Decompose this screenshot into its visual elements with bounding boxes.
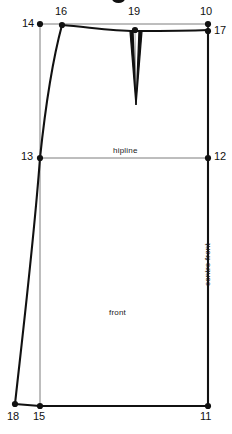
point-label-17: 17	[214, 25, 226, 36]
hem-line	[15, 404, 208, 406]
point-marker-11	[205, 403, 211, 409]
pattern-outline-group	[15, 25, 208, 406]
hipline-label: hipline	[113, 146, 138, 155]
point-marker-15	[37, 403, 43, 409]
centre-front-label: centre front	[203, 243, 212, 286]
point-label-19: 19	[128, 6, 140, 17]
waist-dart-group	[130, 31, 142, 105]
construction-lines-group	[40, 24, 208, 406]
point-marker-16	[59, 22, 65, 28]
point-label-15: 15	[33, 411, 45, 422]
point-marker-19	[132, 27, 138, 33]
point-marker-14	[37, 21, 43, 27]
pattern-vector-graphic	[0, 0, 232, 434]
point-label-11: 11	[200, 411, 211, 422]
point-label-10: 10	[200, 6, 212, 17]
point-marker-12	[205, 155, 211, 161]
side-seam-line	[15, 25, 62, 404]
point-label-12: 12	[214, 151, 226, 162]
point-markers-group	[12, 21, 211, 409]
point-marker-10	[205, 21, 211, 27]
point-marker-13	[37, 155, 43, 161]
point-label-14: 14	[22, 18, 34, 29]
dart-right-leg	[136, 31, 142, 105]
pattern-drawing-canvas: 14 16 19 10 17 13 12 18 15 11 hipline fr…	[0, 0, 232, 434]
point-marker-18	[12, 401, 18, 407]
point-label-13: 13	[21, 151, 33, 162]
point-marker-17	[205, 28, 211, 34]
point-label-16: 16	[55, 6, 67, 17]
front-piece-label: front	[109, 308, 126, 317]
point-label-18: 18	[7, 411, 19, 422]
